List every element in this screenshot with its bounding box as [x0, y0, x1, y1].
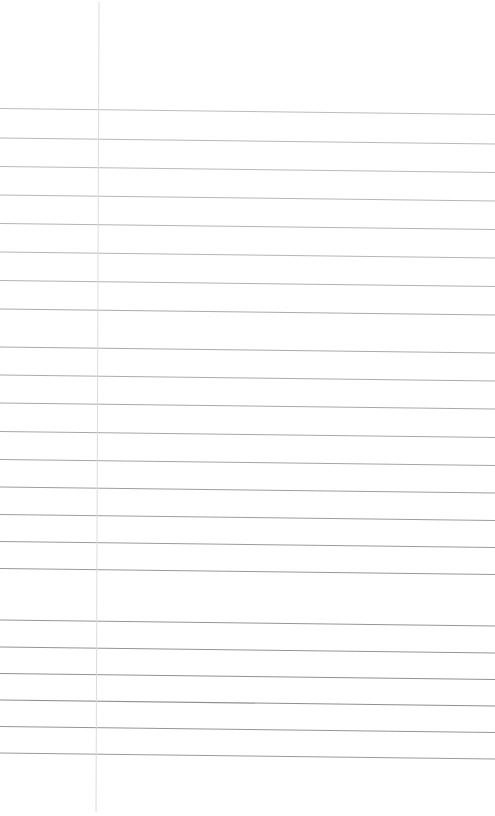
ruled-paper-canvas: [0, 0, 495, 816]
notebook-page: [0, 0, 495, 816]
